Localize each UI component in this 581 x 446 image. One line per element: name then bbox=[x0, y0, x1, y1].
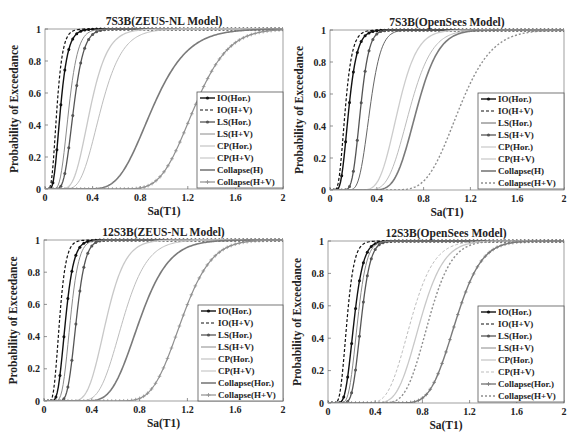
legend-label: IO(Hor.) bbox=[498, 307, 531, 317]
legend-label: Collapse(H+V) bbox=[217, 177, 275, 187]
legend-label: LS(Hor.) bbox=[498, 331, 532, 341]
series-marker bbox=[75, 32, 78, 35]
x-tick-label: 0.4 bbox=[371, 193, 384, 204]
x-tick-label: 0.8 bbox=[134, 192, 147, 203]
y-tick-label: 0.8 bbox=[29, 56, 42, 67]
series-marker bbox=[350, 342, 353, 345]
x-tick-label: 0.8 bbox=[417, 193, 430, 204]
series-marker bbox=[430, 29, 433, 32]
legend-label: CP(Hor.) bbox=[498, 355, 533, 365]
x-tick-label: 2 bbox=[281, 404, 286, 415]
legend-label: Collapse(H) bbox=[498, 166, 544, 176]
series-marker bbox=[74, 254, 77, 257]
series-marker bbox=[94, 241, 97, 244]
x-tick-label: 0.8 bbox=[416, 406, 429, 417]
legend: IO(Hor.)IO(H+V)LS(Hor.)LS(H+V)CP(Hor.)CP… bbox=[478, 306, 564, 402]
legend-label: Collapse(H+V) bbox=[498, 391, 556, 401]
series-marker bbox=[360, 101, 363, 104]
x-axis-label: Sa(T1) bbox=[147, 205, 180, 218]
series-marker bbox=[82, 242, 85, 245]
series-marker bbox=[362, 301, 365, 304]
series-marker bbox=[348, 185, 351, 188]
series-marker bbox=[82, 266, 85, 269]
series-marker bbox=[356, 139, 359, 142]
series-marker bbox=[403, 29, 406, 32]
y-axis-label: Probability of Exceedance bbox=[291, 258, 304, 386]
series-marker bbox=[90, 244, 93, 247]
y-tick-label: 0.4 bbox=[28, 331, 41, 342]
series-marker bbox=[71, 37, 74, 40]
legend-label: IO(Hor.) bbox=[218, 306, 251, 316]
legend-label: LS(H+V) bbox=[498, 130, 534, 140]
y-tick-label: 0.2 bbox=[314, 153, 327, 164]
series-marker bbox=[71, 114, 74, 117]
x-tick-label: 1.2 bbox=[464, 193, 477, 204]
series-marker bbox=[358, 335, 361, 338]
y-tick-label: 0.4 bbox=[29, 120, 42, 131]
x-tick-label: 0 bbox=[43, 192, 48, 203]
chart-panel-3: 12S3B(OpenSees Model)00.40.81.21.6200.20… bbox=[291, 227, 567, 432]
x-tick-label: 1.6 bbox=[511, 193, 524, 204]
y-tick-label: 0.2 bbox=[312, 365, 325, 376]
legend-label: IO(H+V) bbox=[217, 105, 252, 115]
chart-title: 7S3B(OpenSees Model) bbox=[389, 16, 504, 29]
y-tick-label: 0.8 bbox=[312, 268, 325, 279]
y-tick-label: 0.4 bbox=[314, 121, 327, 132]
series-marker bbox=[379, 30, 382, 33]
legend: IO(Hor.)IO(H+V)LS(Hor.)LS(H+V)CP(Hor.)CP… bbox=[478, 93, 564, 189]
y-tick-label: 0 bbox=[319, 398, 324, 409]
series-marker bbox=[91, 33, 94, 36]
figure-canvas: 7S3B(ZEUS-NL Model)00.40.81.21.6200.20.4… bbox=[0, 0, 581, 446]
series-marker bbox=[354, 307, 357, 310]
series-marker bbox=[86, 252, 89, 255]
series-marker bbox=[70, 359, 73, 362]
y-tick-label: 0 bbox=[36, 184, 41, 195]
y-tick-label: 1 bbox=[321, 25, 326, 36]
legend-label: CP(H+V) bbox=[218, 366, 255, 376]
series-marker bbox=[383, 29, 386, 32]
x-tick-label: 1.2 bbox=[181, 404, 194, 415]
series-marker bbox=[63, 172, 66, 175]
fragility-figure: 7S3B(ZEUS-NL Model)00.40.81.21.6200.20.4… bbox=[0, 0, 581, 446]
x-tick-label: 1.2 bbox=[182, 192, 195, 203]
series-marker bbox=[342, 396, 345, 399]
y-tick-label: 0.4 bbox=[312, 333, 325, 344]
series-marker bbox=[410, 29, 413, 32]
x-tick-label: 2 bbox=[562, 406, 567, 417]
legend-label: LS(Hor.) bbox=[218, 330, 252, 340]
series-marker bbox=[368, 31, 371, 34]
x-tick-label: 2 bbox=[562, 193, 567, 204]
x-tick-label: 0.4 bbox=[369, 406, 382, 417]
chart-title: 12S3B(OpenSees Model) bbox=[385, 227, 506, 240]
series-marker bbox=[63, 69, 66, 72]
x-axis-label: Sa(T1) bbox=[429, 419, 462, 432]
y-axis-label: Probability of Exceedance bbox=[8, 45, 21, 173]
chart-panel-1: 7S3B(OpenSees Model)00.40.81.21.6200.20.… bbox=[293, 16, 567, 219]
series-marker bbox=[79, 30, 82, 33]
legend-label: Collapse(Hor.) bbox=[218, 378, 274, 388]
legend-label: CP(H+V) bbox=[217, 153, 254, 163]
series-marker bbox=[364, 34, 367, 37]
series-marker bbox=[70, 270, 73, 273]
series-marker bbox=[371, 38, 374, 41]
y-tick-label: 0.2 bbox=[29, 152, 42, 163]
series-marker bbox=[75, 84, 78, 87]
x-tick-label: 0 bbox=[328, 193, 333, 204]
y-tick-label: 0.2 bbox=[28, 363, 41, 374]
legend-label: Collapse(H+V) bbox=[218, 390, 276, 400]
y-tick-label: 0 bbox=[35, 396, 40, 407]
series-marker bbox=[395, 29, 398, 32]
legend-label: LS(H+V) bbox=[217, 129, 253, 139]
series-marker bbox=[87, 38, 90, 41]
series-marker bbox=[74, 323, 77, 326]
legend-label: CP(H+V) bbox=[498, 154, 535, 164]
series-marker bbox=[67, 48, 70, 51]
x-tick-label: 1.6 bbox=[229, 192, 242, 203]
y-tick-label: 0.6 bbox=[312, 300, 325, 311]
y-tick-label: 0.8 bbox=[314, 57, 327, 68]
series-marker bbox=[54, 395, 57, 398]
legend-label: CP(Hor.) bbox=[217, 141, 252, 151]
series-marker bbox=[58, 374, 61, 377]
x-axis-label: Sa(T1) bbox=[430, 206, 463, 219]
y-tick-label: 0.6 bbox=[314, 89, 327, 100]
